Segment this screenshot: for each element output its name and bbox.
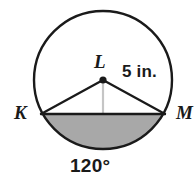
geometry-figure: L 5 in. K M 120°	[0, 0, 194, 182]
center-point-label: L	[94, 52, 106, 71]
arc-angle-label: 120°	[70, 156, 111, 175]
radius-measure-label: 5 in.	[122, 63, 157, 80]
radius-line-lk	[41, 80, 103, 114]
right-endpoint-label: M	[176, 103, 193, 122]
radius-line-lm	[103, 80, 165, 114]
left-endpoint-label: K	[14, 103, 27, 122]
center-point-dot	[99, 76, 106, 83]
